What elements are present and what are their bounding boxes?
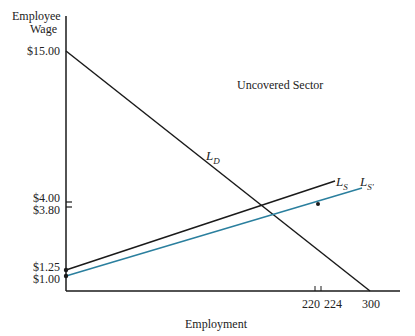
ls-intercept-dot	[64, 268, 68, 272]
sector-title: Uncovered Sector	[237, 79, 323, 91]
y-axis-label-line2: Wage	[30, 23, 57, 35]
supply-curve-ls-prime	[66, 188, 362, 276]
x-axis-label: Employment	[185, 318, 247, 330]
ld-label: LD	[206, 150, 220, 167]
y-tick-label-15: $15.00	[0, 45, 60, 57]
equilibrium-dot	[316, 202, 320, 206]
y-tick-label-1: $1.00	[0, 273, 60, 285]
supply-curve-ls	[66, 181, 335, 270]
y-tick-label-380: $3.80	[0, 204, 60, 216]
ls-label: LS	[336, 176, 348, 193]
chart-plot	[0, 0, 415, 336]
lsp-intercept-dot	[64, 274, 68, 278]
x-tick-label-224: 224	[318, 298, 348, 310]
ls-prime-label: LS'	[360, 176, 374, 193]
y-axis-label-line1: Employee	[12, 10, 61, 22]
x-tick-label-300: 300	[356, 298, 386, 310]
